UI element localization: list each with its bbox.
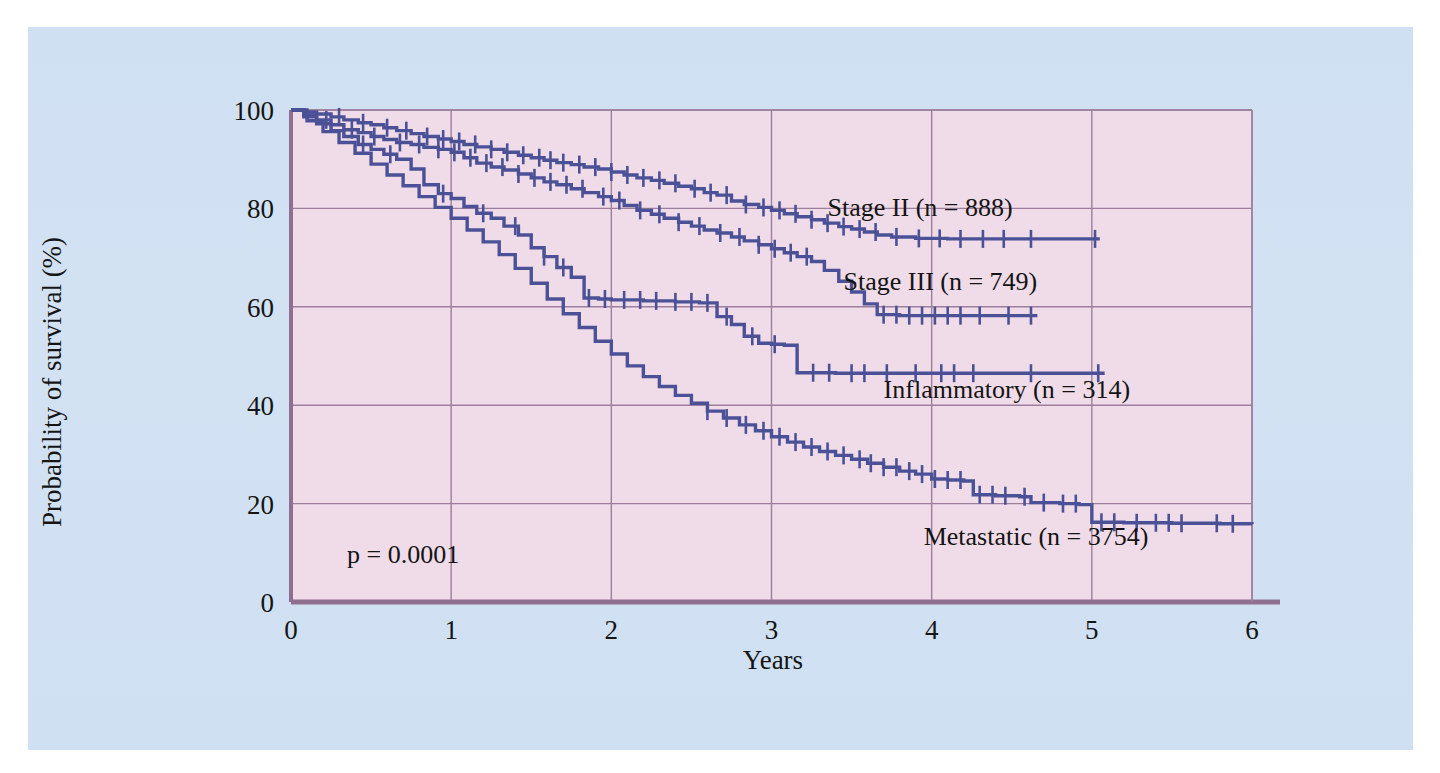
x-tick-5: 5 <box>1085 615 1099 645</box>
series-label-2: Inflammatory (n = 314) <box>884 375 1130 404</box>
x-axis-tick-labels: 0123456 <box>284 615 1259 645</box>
y-tick-20: 20 <box>247 490 274 520</box>
figure-panel: 0123456 020406080100 Stage II (n = 888)S… <box>28 27 1413 750</box>
x-tick-6: 6 <box>1245 615 1259 645</box>
survival-chart: 0123456 020406080100 Stage II (n = 888)S… <box>28 27 1413 750</box>
x-tick-4: 4 <box>925 615 939 645</box>
x-tick-3: 3 <box>765 615 779 645</box>
y-tick-100: 100 <box>234 96 275 126</box>
x-axis-title: Years <box>743 645 803 675</box>
y-tick-80: 80 <box>247 194 274 224</box>
series-label-1: Stage III (n = 749) <box>844 267 1038 296</box>
x-tick-1: 1 <box>444 615 458 645</box>
y-tick-60: 60 <box>247 293 274 323</box>
y-axis-title: Probability of survival (%) <box>37 237 67 527</box>
y-axis-tick-labels: 020406080100 <box>234 96 275 618</box>
y-tick-0: 0 <box>261 588 275 618</box>
figure-root: 0123456 020406080100 Stage II (n = 888)S… <box>0 0 1440 773</box>
annotation-p-value: p = 0.0001 <box>347 540 459 569</box>
series-label-3: Metastatic (n = 3754) <box>924 522 1149 551</box>
x-tick-2: 2 <box>605 615 619 645</box>
x-tick-0: 0 <box>284 615 298 645</box>
series-label-0: Stage II (n = 888) <box>828 193 1013 222</box>
y-tick-40: 40 <box>247 391 274 421</box>
chart-annotations: p = 0.0001 <box>347 540 459 569</box>
